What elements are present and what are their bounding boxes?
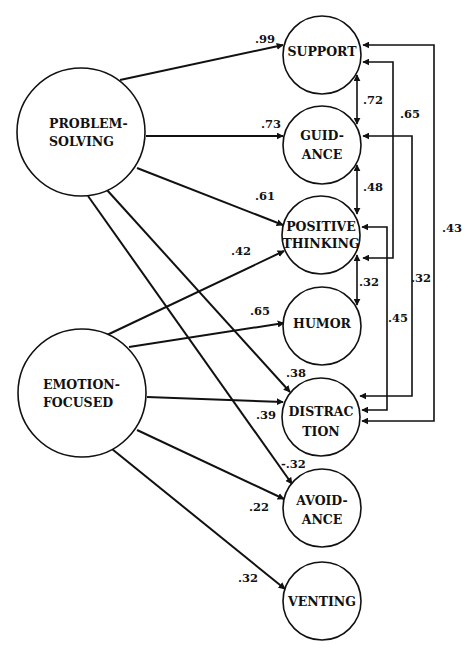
indicator-label-line1: AVOID- xyxy=(295,493,347,508)
factor-label-line2: FOCUSED xyxy=(43,395,113,410)
coef-ef-distraction: .39 xyxy=(256,408,276,422)
indicator-label-line1: GUID- xyxy=(300,128,344,143)
indicator-label-line1: POSITIVE xyxy=(286,219,356,234)
indicator-label: SUPPORT xyxy=(287,44,357,59)
cov-guidance-distraction xyxy=(360,136,412,396)
coef-guidance-distraction: .32 xyxy=(411,271,431,285)
indicator-support: SUPPORT xyxy=(283,16,361,94)
coef-ps-positive: .61 xyxy=(255,189,275,203)
coef-ef-venting: .32 xyxy=(238,571,258,585)
correlation-labels: .72 .48 .32 .65 .45 .32 .43 xyxy=(359,93,462,325)
factor-label-line2: SOLVING xyxy=(49,134,114,149)
edge-ps-support xyxy=(120,45,283,80)
coef-ps-support: .99 xyxy=(255,32,275,46)
coef-ef-humor: .65 xyxy=(250,304,270,318)
path-diagram: PROBLEM- SOLVING EMOTION- FOCUSED SUPPOR… xyxy=(0,0,476,654)
indicator-distraction: DISTRAC TION xyxy=(282,378,360,456)
coef-support-distraction: .43 xyxy=(442,221,462,235)
factor-label-line1: PROBLEM- xyxy=(49,116,128,131)
coef-positive-humor: .32 xyxy=(359,275,379,289)
factor-label-line1: EMOTION- xyxy=(43,377,120,392)
coef-support-guidance: .72 xyxy=(363,93,383,107)
edge-ef-distraction xyxy=(147,397,283,402)
cov-support-positive xyxy=(363,62,393,258)
indicator-label: VENTING xyxy=(287,594,356,609)
indicator-label-line2: ANCE xyxy=(301,147,343,162)
edge-ef-venting xyxy=(112,449,285,589)
coef-ps-guidance: .73 xyxy=(261,117,281,131)
indicator-label-line2: THINKING xyxy=(282,236,359,251)
factor-emotion-focused: EMOTION- FOCUSED xyxy=(18,329,146,457)
indicator-label-line2: ANCE xyxy=(301,512,343,527)
coef-guidance-positive: .48 xyxy=(363,180,383,194)
indicator-avoidance: AVOID- ANCE xyxy=(283,469,361,547)
coef-ps-distraction: .38 xyxy=(286,366,306,380)
coef-ps-avoidance: -.32 xyxy=(281,457,306,471)
coef-ef-avoidance: .22 xyxy=(249,500,269,514)
edge-ef-humor xyxy=(129,323,284,347)
indicator-label: HUMOR xyxy=(293,316,351,331)
indicator-label-line2: TION xyxy=(302,424,339,439)
cov-positive-distraction xyxy=(362,227,387,410)
indicator-positive-thinking: POSITIVE THINKING xyxy=(282,196,360,274)
coef-ef-positive: .42 xyxy=(231,244,251,258)
coef-positive-distraction: .45 xyxy=(388,311,408,325)
indicator-venting: VENTING xyxy=(283,562,361,640)
indicator-humor: HUMOR xyxy=(283,287,361,365)
edge-ef-positive-thinking xyxy=(107,251,284,335)
coef-support-positive: .65 xyxy=(400,107,420,121)
factor-problem-solving: PROBLEM- SOLVING xyxy=(17,68,145,196)
indicator-label-line1: DISTRAC xyxy=(288,404,353,419)
indicator-guidance: GUID- ANCE xyxy=(283,106,361,184)
